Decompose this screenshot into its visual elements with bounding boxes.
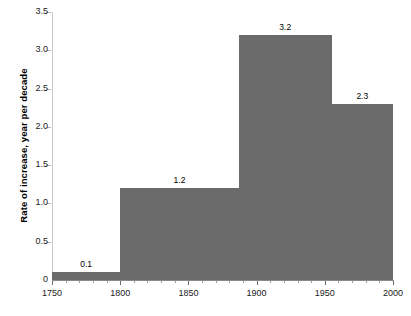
- x-tick-mark: [188, 281, 189, 285]
- x-tick-minor: [311, 281, 312, 283]
- x-tick-minor: [379, 281, 380, 283]
- x-tick-mark: [325, 281, 326, 285]
- x-tick-minor: [298, 281, 299, 283]
- x-tick-minor: [229, 281, 230, 283]
- x-tick-minor: [366, 281, 367, 283]
- y-axis-title: Rate of increase, year per decade: [18, 16, 29, 276]
- x-tick-minor: [284, 281, 285, 283]
- bar-value-label: 3.2: [239, 22, 332, 32]
- x-tick-label: 1800: [110, 288, 130, 298]
- y-tick-label: 0.5: [35, 236, 48, 246]
- x-tick-minor: [93, 281, 94, 283]
- x-tick-minor: [161, 281, 162, 283]
- x-axis-line: [52, 280, 394, 281]
- y-tick-label: 3.5: [35, 6, 48, 16]
- x-tick-minor: [270, 281, 271, 283]
- x-tick-minor: [202, 281, 203, 283]
- y-tick-label: 3.0: [35, 44, 48, 54]
- figure: Rate of increase, year per decade 00.51.…: [0, 0, 411, 316]
- bar: [239, 35, 332, 280]
- bar: [332, 104, 393, 280]
- x-tick-minor: [79, 281, 80, 283]
- bar: [120, 188, 239, 280]
- x-tick-minor: [147, 281, 148, 283]
- x-tick-mark: [120, 281, 121, 285]
- bar-value-label: 1.2: [120, 175, 239, 185]
- x-tick-minor: [338, 281, 339, 283]
- y-tick-label: 2.5: [35, 83, 48, 93]
- bar: [52, 272, 120, 280]
- x-tick-minor: [134, 281, 135, 283]
- x-tick-minor: [216, 281, 217, 283]
- y-tick-label: 1.0: [35, 197, 48, 207]
- x-tick-label: 2000: [383, 288, 403, 298]
- y-tick-label: 0: [43, 274, 48, 284]
- x-tick-minor: [107, 281, 108, 283]
- bar-value-label: 0.1: [52, 259, 120, 269]
- x-tick-label: 1900: [247, 288, 267, 298]
- x-tick-minor: [175, 281, 176, 283]
- x-tick-minor: [352, 281, 353, 283]
- x-tick-label: 1950: [315, 288, 335, 298]
- x-tick-mark: [52, 281, 53, 285]
- y-tick-label: 1.5: [35, 159, 48, 169]
- bar-value-label: 2.3: [332, 91, 393, 101]
- x-tick-mark: [393, 281, 394, 285]
- x-tick-minor: [243, 281, 244, 283]
- y-tick-label: 2.0: [35, 121, 48, 131]
- x-tick-label: 1750: [42, 288, 62, 298]
- x-tick-minor: [66, 281, 67, 283]
- plot-area: 0.11.23.22.3: [52, 12, 393, 280]
- x-tick-label: 1850: [178, 288, 198, 298]
- x-tick-mark: [257, 281, 258, 285]
